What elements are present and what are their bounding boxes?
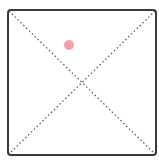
frame-box (8, 10, 156, 155)
marker-dot[interactable] (64, 40, 74, 50)
diagram-canvas (0, 0, 159, 167)
